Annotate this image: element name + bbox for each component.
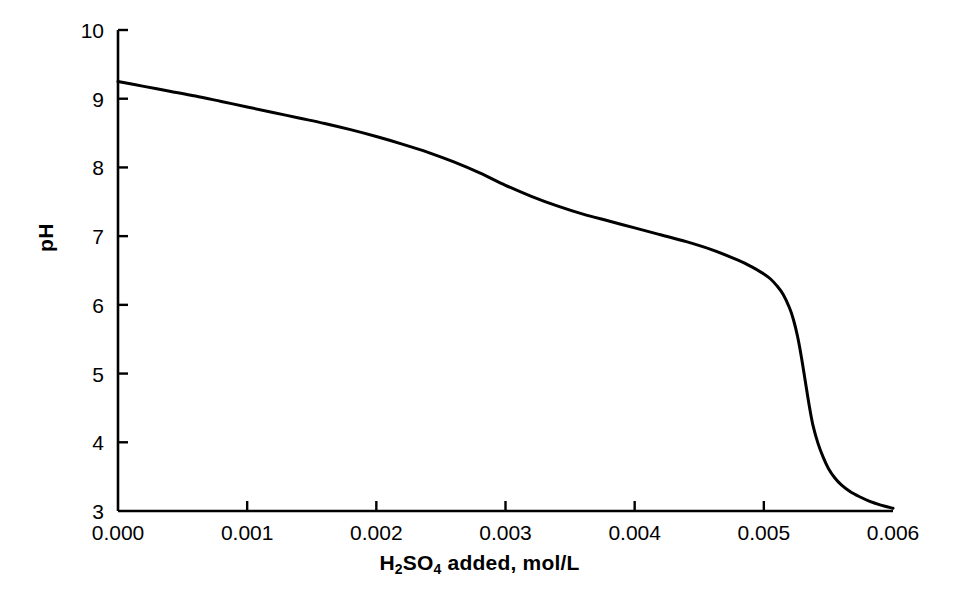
y-tick-label: 10 bbox=[81, 19, 104, 42]
x-axis-label-sub2: 4 bbox=[434, 561, 442, 577]
x-tick-label: 0.002 bbox=[350, 521, 403, 544]
y-tick-label: 3 bbox=[92, 500, 104, 523]
x-tick-label: 0.004 bbox=[608, 521, 661, 544]
x-axis-label-post: added, mol/L bbox=[442, 551, 580, 574]
y-tick-label: 7 bbox=[92, 225, 104, 248]
titration-curve bbox=[118, 82, 893, 509]
x-tick-label: 0.006 bbox=[867, 521, 920, 544]
x-axis-label-mid: SO bbox=[403, 551, 434, 574]
y-tick-label: 5 bbox=[92, 363, 104, 386]
plot-area: 345678910 0.0000.0010.0020.0030.0040.005… bbox=[0, 0, 959, 609]
x-axis-label: H2SO4 added, mol/L bbox=[0, 551, 959, 575]
y-axis-label: pH bbox=[34, 223, 58, 252]
x-tick-label: 0.001 bbox=[221, 521, 274, 544]
y-tick-group: 345678910 bbox=[81, 19, 128, 523]
y-tick-label: 9 bbox=[92, 88, 104, 111]
x-tick-group: 0.0000.0010.0020.0030.0040.0050.006 bbox=[92, 501, 920, 544]
y-tick-label: 6 bbox=[92, 294, 104, 317]
chart-figure: pH H2SO4 added, mol/L 345678910 0.0000.0… bbox=[0, 0, 959, 609]
y-tick-label: 4 bbox=[92, 431, 104, 454]
x-axis-label-sub1: 2 bbox=[395, 561, 403, 577]
x-tick-label: 0.000 bbox=[92, 521, 145, 544]
x-axis-label-pre: H bbox=[379, 551, 394, 574]
y-tick-label: 8 bbox=[92, 156, 104, 179]
x-tick-label: 0.003 bbox=[479, 521, 532, 544]
x-tick-label: 0.005 bbox=[738, 521, 791, 544]
